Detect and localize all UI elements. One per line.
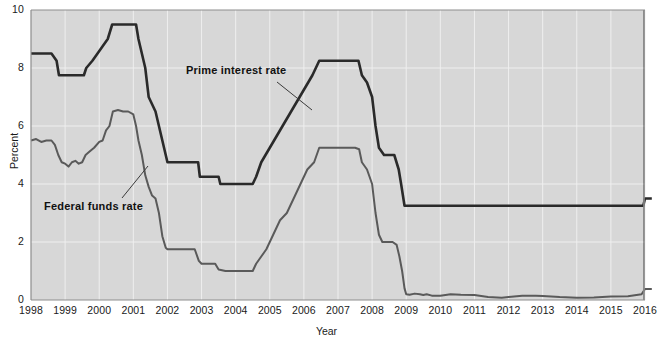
x-axis-title: Year [0, 325, 653, 337]
federal-funds-rate-label: Federal funds rate [44, 200, 143, 212]
y-axis-title: Percent [8, 116, 20, 186]
data-series-layer [31, 25, 652, 298]
y-tick-label: 2 [0, 235, 24, 247]
prime-interest-rate-label: Prime interest rate [186, 64, 286, 76]
federal-funds-leader-line [122, 166, 148, 198]
x-tick-label: 2016 [625, 304, 661, 316]
y-tick-label: 10 [0, 3, 24, 15]
series-line-prime [31, 25, 652, 206]
vertical-gridlines [65, 10, 645, 300]
y-tick-label: 8 [0, 61, 24, 73]
